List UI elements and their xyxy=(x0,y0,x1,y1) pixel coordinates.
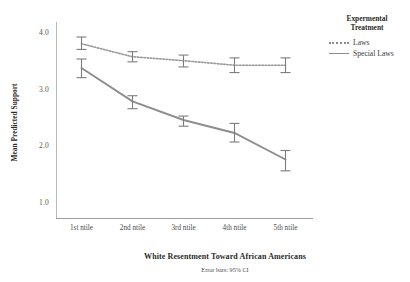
legend-label-laws: Laws xyxy=(353,38,369,47)
error-bar xyxy=(77,59,87,78)
x-axis-title: White Resentment Toward African American… xyxy=(0,252,410,261)
chart-footnote-text: Error bars: 95% CI xyxy=(161,266,248,273)
x-axis-title-text: White Resentment Toward African American… xyxy=(104,252,306,261)
x-axis-ticks: 1st ntile2nd ntile3rd ntile4th ntile5th … xyxy=(56,221,311,235)
legend-item-special-laws[interactable]: Special Laws xyxy=(329,49,408,58)
error-bar xyxy=(77,37,87,49)
x-tick-label: 3rd ntile xyxy=(171,224,195,232)
legend-swatch-solid-icon xyxy=(329,53,349,54)
series-special-laws xyxy=(77,59,291,171)
series-laws xyxy=(77,37,291,73)
x-tick-label: 4th ntile xyxy=(223,224,247,232)
chart-root: 1.02.03.04.0 Mean Predicted Support 1st … xyxy=(0,0,410,282)
series-line xyxy=(82,68,286,159)
x-tick-label: 5th ntile xyxy=(274,224,298,232)
legend-swatch-dotted-icon xyxy=(329,42,349,44)
chart-legend: Expermental Treatment Laws Special Laws xyxy=(326,14,408,60)
x-tick-label: 2nd ntile xyxy=(120,224,145,232)
x-tick-label: 1st ntile xyxy=(70,224,93,232)
legend-label-special-laws: Special Laws xyxy=(353,49,394,58)
legend-title-line1: Expermental xyxy=(326,14,408,23)
legend-title-line2: Treatment xyxy=(326,23,408,32)
chart-footnote: Error bars: 95% CI xyxy=(0,266,410,273)
legend-item-laws[interactable]: Laws xyxy=(329,38,408,47)
legend-title: Expermental Treatment xyxy=(326,14,408,32)
error-bar xyxy=(281,150,291,170)
